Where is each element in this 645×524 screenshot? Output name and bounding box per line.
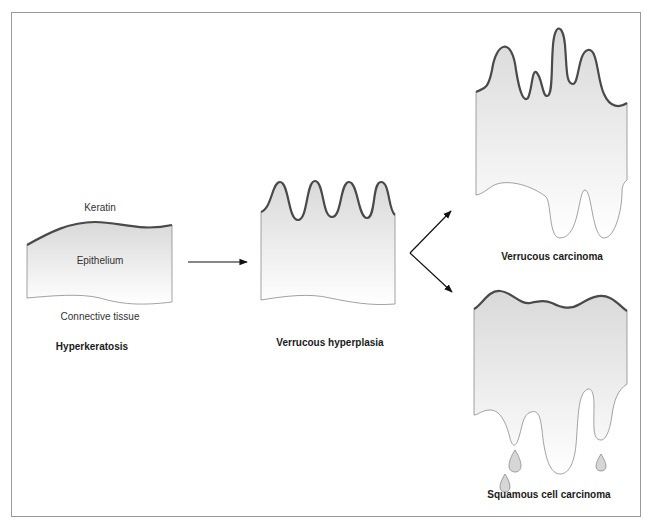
connective-tissue-label: Connective tissue — [61, 311, 140, 322]
hyperkeratosis-group: Keratin Epithelium Connective tissue Hyp… — [27, 202, 172, 352]
arrow-to-verrucous-carcinoma — [410, 211, 451, 253]
squamous-cell-carcinoma-title: Squamous cell carcinoma — [487, 489, 611, 500]
keratin-label: Keratin — [84, 202, 116, 213]
diagram-canvas: Keratin Epithelium Connective tissue Hyp… — [0, 0, 645, 524]
verrucous-carcinoma-group: Verrucous carcinoma — [476, 28, 627, 262]
hyperkeratosis-title: Hyperkeratosis — [56, 341, 129, 352]
arrow-to-squamous-cell-carcinoma — [410, 253, 452, 292]
verrucous-hyperplasia-title: Verrucous hyperplasia — [276, 337, 384, 348]
invasive-cell-nest-1 — [509, 450, 521, 472]
squamous-cell-carcinoma-group: Squamous cell carcinoma — [474, 291, 627, 500]
epithelium-label: Epithelium — [77, 255, 124, 266]
squamous-cell-carcinoma-epithelium — [474, 291, 627, 474]
invasive-cell-nest-3 — [596, 454, 606, 471]
verrucous-hyperplasia-group: Verrucous hyperplasia — [261, 181, 395, 348]
verrucous-carcinoma-title: Verrucous carcinoma — [501, 251, 603, 262]
